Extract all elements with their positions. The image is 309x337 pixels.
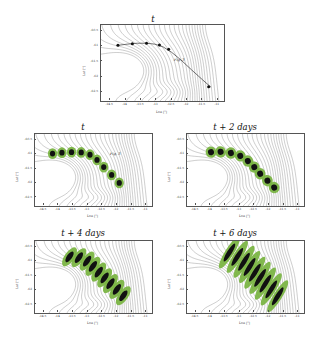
panel-t-annotation: Fig. 3 — [110, 152, 121, 156]
y-tick-mark — [34, 275, 36, 276]
panel-t-xlabel: Lon [°] — [34, 214, 151, 218]
x-tick-mark — [57, 203, 58, 205]
x-axis-tick: -14.5 — [101, 102, 117, 106]
track-marker — [167, 48, 170, 51]
x-axis-tick: -12 — [108, 314, 124, 318]
x-tick-mark — [171, 98, 172, 100]
y-axis-tick: -61 — [170, 151, 184, 155]
panel-t6-xlabel: Lon [°] — [186, 321, 303, 325]
y-axis-tick: -61.5 — [18, 166, 32, 170]
y-tick-mark — [186, 275, 188, 276]
x-axis-tick: -11 — [209, 102, 225, 106]
x-tick-mark — [140, 98, 141, 100]
panel-top-xlabel: Lon [°] — [100, 110, 223, 114]
y-axis-tick: -62.5 — [18, 302, 32, 306]
y-tick-mark — [34, 153, 36, 154]
x-tick-mark — [155, 98, 156, 100]
tracer-patch — [99, 162, 108, 173]
tracer-patch — [115, 178, 124, 189]
x-tick-mark — [297, 310, 298, 312]
x-tick-mark — [268, 203, 269, 205]
panel-t6-title: t + 6 days — [164, 228, 306, 238]
contour-field — [187, 241, 304, 313]
y-axis-tick: -60.5 — [170, 137, 184, 141]
panel-t6-plot — [186, 240, 305, 314]
x-axis-tick: -11 — [137, 314, 153, 318]
x-axis-tick: -11 — [289, 314, 305, 318]
x-tick-mark — [116, 310, 117, 312]
y-tick-mark — [34, 289, 36, 290]
y-tick-mark — [186, 139, 188, 140]
panel-t6: t + 6 days Lat [°] Lon [°] -60.5-61-61.5… — [164, 228, 306, 332]
panel-top-annotation: Fig. 3 — [174, 58, 185, 62]
y-tick-mark — [186, 246, 188, 247]
x-tick-mark — [72, 310, 73, 312]
x-tick-mark — [297, 203, 298, 205]
x-axis-tick: -12.5 — [93, 207, 109, 211]
x-tick-mark — [239, 203, 240, 205]
y-axis-tick: -62 — [18, 287, 32, 291]
x-tick-mark — [72, 203, 73, 205]
x-axis-tick: -13 — [79, 314, 95, 318]
contour-field — [187, 134, 304, 206]
contour-field — [35, 241, 152, 313]
y-tick-mark — [186, 289, 188, 290]
x-axis-tick: -13.5 — [132, 102, 148, 106]
x-axis-tick: -14.5 — [35, 314, 51, 318]
panel-t2-title: t + 2 days — [164, 122, 306, 132]
x-axis-tick: -12.5 — [245, 314, 261, 318]
x-tick-mark — [145, 310, 146, 312]
x-axis-tick: -14 — [201, 314, 217, 318]
x-axis-tick: -14.5 — [35, 207, 51, 211]
x-axis-tick: -12.5 — [163, 102, 179, 106]
y-axis-tick: -61.5 — [170, 166, 184, 170]
x-tick-mark — [131, 310, 132, 312]
x-axis-tick: -13.5 — [64, 314, 80, 318]
y-tick-mark — [186, 182, 188, 183]
y-tick-mark — [100, 45, 102, 46]
y-axis-tick: -62.5 — [18, 195, 32, 199]
x-tick-mark — [87, 310, 88, 312]
panel-t2: t + 2 days Lat [°] Lon [°] -60.5-61-61.5… — [164, 122, 306, 222]
tracer-patch-group — [216, 241, 291, 313]
y-tick-mark — [100, 91, 102, 92]
y-axis-tick: -60.5 — [84, 28, 98, 32]
y-tick-mark — [34, 168, 36, 169]
x-tick-mark — [186, 98, 187, 100]
y-tick-mark — [186, 196, 188, 197]
track-marker — [158, 44, 161, 47]
panel-t: t Lat [°] Lon [°] Fig. 3 -60.5-61-61.5-6… — [12, 122, 154, 222]
x-axis-tick: -14 — [49, 207, 65, 211]
x-tick-mark — [283, 310, 284, 312]
y-axis-tick: -61.5 — [170, 273, 184, 277]
track-marker — [131, 42, 134, 45]
x-axis-tick: -14 — [117, 102, 133, 106]
x-axis-tick: -11 — [289, 207, 305, 211]
track-marker — [207, 85, 210, 88]
x-axis-tick: -14 — [201, 207, 217, 211]
y-axis-tick: -61.5 — [18, 273, 32, 277]
tracer-patch — [57, 147, 66, 158]
y-tick-mark — [34, 260, 36, 261]
x-axis-tick: -12 — [108, 207, 124, 211]
x-axis-tick: -13 — [79, 207, 95, 211]
x-tick-mark — [116, 203, 117, 205]
x-tick-mark — [43, 203, 44, 205]
x-tick-mark — [209, 310, 210, 312]
panel-t4-title: t + 4 days — [12, 228, 154, 238]
y-tick-mark — [186, 260, 188, 261]
x-axis-tick: -12 — [178, 102, 194, 106]
panel-t4-xlabel: Lon [°] — [34, 321, 151, 325]
x-tick-mark — [131, 203, 132, 205]
y-axis-tick: -60.5 — [18, 244, 32, 248]
x-tick-mark — [57, 310, 58, 312]
x-axis-tick: -11.5 — [275, 314, 291, 318]
x-tick-mark — [224, 310, 225, 312]
x-axis-tick: -13.5 — [216, 314, 232, 318]
y-axis-tick: -61.5 — [84, 59, 98, 63]
y-axis-tick: -60.5 — [170, 244, 184, 248]
y-axis-tick: -62.5 — [84, 89, 98, 93]
panel-t2-plot — [186, 133, 305, 207]
figure-container: t Lat [°] Lon [°] Fig. 3 -60.5-61-61.5-6… — [0, 0, 309, 337]
panel-top: t Lat [°] Lon [°] Fig. 3 -60.5-61-61.5-6… — [78, 14, 228, 118]
